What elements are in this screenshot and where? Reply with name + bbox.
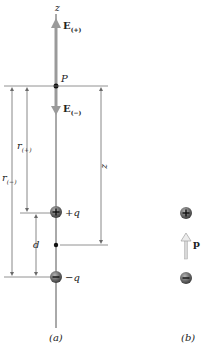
panel-a-caption: (a) bbox=[49, 332, 63, 343]
r-minus-label: r(−) bbox=[2, 172, 17, 185]
field-positive-label: E(+) bbox=[63, 20, 81, 33]
r-plus-label: r(+) bbox=[17, 140, 32, 153]
dipole-moment-arrow bbox=[181, 233, 191, 259]
z-axis-label: z bbox=[54, 3, 60, 13]
point-p-label: P bbox=[60, 73, 68, 84]
negative-charge-label: −q bbox=[65, 272, 80, 283]
dipole-negative-charge bbox=[180, 272, 192, 284]
z-distance-label: z bbox=[100, 163, 110, 169]
dipole-midpoint-dot bbox=[54, 243, 58, 247]
field-arrow-positive bbox=[51, 18, 61, 86]
field-arrow-negative bbox=[51, 86, 61, 115]
positive-charge-label: +q bbox=[65, 207, 80, 218]
electric-dipole-diagram: z E(+) E(−) P bbox=[0, 0, 206, 346]
negative-charge bbox=[50, 271, 62, 283]
dipole-positive-charge bbox=[180, 207, 192, 219]
panel-a: z E(+) E(−) P bbox=[2, 3, 110, 343]
field-negative-label: E(−) bbox=[63, 103, 81, 116]
positive-charge bbox=[50, 206, 62, 218]
panel-b-caption: (b) bbox=[181, 332, 195, 343]
panel-b: p (b) bbox=[180, 207, 200, 343]
d-label: d bbox=[33, 239, 39, 250]
dipole-moment-label: p bbox=[193, 238, 200, 249]
